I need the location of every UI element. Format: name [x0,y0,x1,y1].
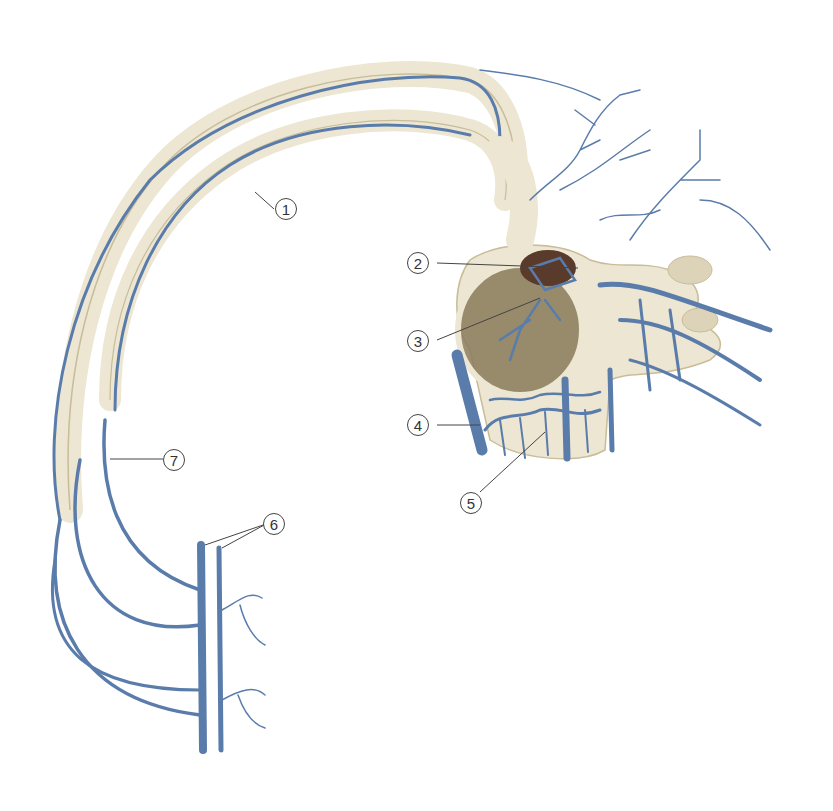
callout-2: 2 [407,252,429,274]
callout-7: 7 [163,449,185,471]
anatomy-figure [0,0,833,811]
callout-5: 5 [460,492,482,514]
callout-6: 6 [263,513,285,535]
internal-thoracic-veins [201,545,265,750]
callout-1: 1 [275,198,297,220]
callout-3: 3 [407,330,429,352]
callout-4: 4 [407,414,429,436]
